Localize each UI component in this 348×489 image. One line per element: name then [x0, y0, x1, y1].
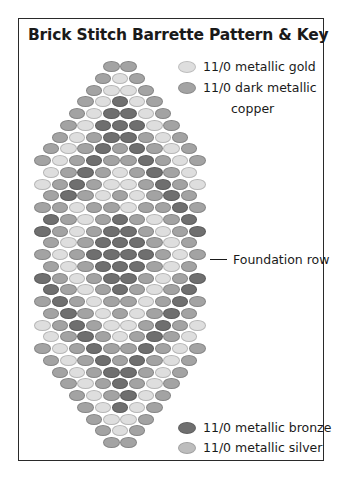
bead: [146, 214, 163, 225]
bead: [86, 273, 103, 284]
bead: [103, 85, 120, 96]
bead: [129, 190, 146, 201]
bead: [172, 273, 189, 284]
bead: [43, 331, 60, 342]
bead: [138, 179, 155, 190]
bead: [163, 214, 180, 225]
bead: [189, 296, 206, 307]
bead: [52, 179, 69, 190]
bead: [95, 237, 112, 248]
bead: [120, 155, 137, 166]
bead: [112, 261, 129, 272]
bead: [69, 249, 86, 260]
bead: [34, 202, 51, 213]
bead: [43, 214, 60, 225]
bead: [120, 249, 137, 260]
bead: [138, 132, 155, 143]
bead: [181, 355, 198, 366]
bead: [155, 155, 172, 166]
bead: [189, 226, 206, 237]
bead: [52, 320, 69, 331]
bead: [146, 308, 163, 319]
bead: [181, 284, 198, 295]
bead: [86, 108, 103, 119]
bead: [69, 343, 86, 354]
bead: [138, 226, 155, 237]
bead: [138, 296, 155, 307]
bead: [146, 378, 163, 389]
bead: [129, 96, 146, 107]
bead: [120, 437, 137, 448]
bead: [43, 355, 60, 366]
silver-bead-swatch-icon: [178, 442, 196, 454]
bead: [69, 273, 86, 284]
bead: [146, 190, 163, 201]
bead: [52, 367, 69, 378]
bead: [95, 261, 112, 272]
bead: [77, 190, 94, 201]
legend-copper-label-2: copper: [231, 101, 274, 116]
bead: [120, 202, 137, 213]
bead: [52, 226, 69, 237]
legend-copper-label: 11/0 dark metallic: [203, 80, 317, 95]
bead: [172, 367, 189, 378]
bead: [77, 237, 94, 248]
bead: [112, 308, 129, 319]
bead: [172, 155, 189, 166]
bead: [163, 237, 180, 248]
legend-gold-label: 11/0 metallic gold: [203, 59, 316, 74]
copper-bead-swatch-icon: [178, 82, 196, 94]
bead: [120, 343, 137, 354]
bead: [86, 343, 103, 354]
bead: [95, 355, 112, 366]
bead: [172, 132, 189, 143]
bead: [34, 320, 51, 331]
bead: [181, 308, 198, 319]
bead: [34, 155, 51, 166]
bead: [77, 96, 94, 107]
bead: [155, 390, 172, 401]
bead: [86, 179, 103, 190]
bead: [155, 320, 172, 331]
bead: [120, 273, 137, 284]
bead: [146, 331, 163, 342]
bead: [34, 296, 51, 307]
bead: [77, 261, 94, 272]
bead: [60, 308, 77, 319]
bead: [95, 402, 112, 413]
bead: [146, 284, 163, 295]
bead: [155, 273, 172, 284]
bead: [103, 437, 120, 448]
bead: [95, 425, 112, 436]
bead: [155, 108, 172, 119]
bead: [86, 390, 103, 401]
bead: [129, 143, 146, 154]
bead: [155, 296, 172, 307]
bead: [103, 61, 120, 72]
bead: [112, 425, 129, 436]
bead: [112, 214, 129, 225]
bead: [129, 331, 146, 342]
bead: [95, 143, 112, 154]
bead: [43, 308, 60, 319]
bead: [112, 355, 129, 366]
bead: [120, 61, 137, 72]
bead: [181, 214, 198, 225]
bead: [43, 284, 60, 295]
bead: [155, 226, 172, 237]
bead: [103, 320, 120, 331]
bead: [77, 214, 94, 225]
bead: [103, 226, 120, 237]
bead: [146, 167, 163, 178]
bead: [60, 143, 77, 154]
bead: [112, 120, 129, 131]
bead: [146, 237, 163, 248]
bead: [52, 273, 69, 284]
bead: [95, 308, 112, 319]
bead: [95, 167, 112, 178]
bead: [112, 237, 129, 248]
legend-gold: 11/0 metallic gold: [178, 59, 316, 74]
legend-silver: 11/0 metallic silver: [178, 440, 322, 455]
bead: [95, 331, 112, 342]
bead: [181, 143, 198, 154]
